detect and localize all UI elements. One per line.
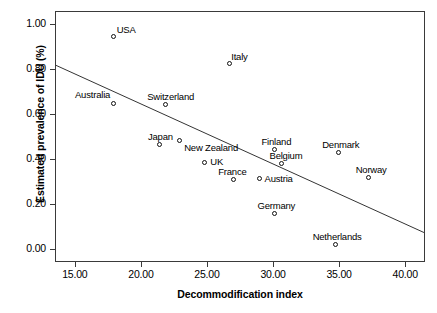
plot-frame: USAItalyAustraliaSwitzerlandJapanNew Zea…	[55, 11, 425, 262]
plot-area: USAItalyAustraliaSwitzerlandJapanNew Zea…	[56, 12, 424, 261]
y-tick-label: 0.20	[0, 198, 46, 209]
data-point-label: Japan	[148, 132, 173, 142]
data-point-label: Germany	[258, 201, 296, 211]
data-point-marker	[111, 101, 116, 106]
x-tick-mark	[273, 262, 274, 267]
y-tick-label: 0.80	[0, 63, 46, 74]
data-point-label: Finland	[261, 137, 291, 147]
data-point-label: New Zealand	[184, 143, 238, 153]
data-point-label: Belgium	[269, 151, 302, 161]
data-point-label: USA	[117, 25, 136, 35]
x-tick-label: 30.00	[250, 269, 296, 280]
data-point-label: Switzerland	[147, 92, 194, 102]
x-tick-mark	[405, 262, 406, 267]
y-tick-label: 0.00	[0, 243, 46, 254]
data-point-label: Australia	[75, 90, 110, 100]
x-tick-label: 35.00	[316, 269, 362, 280]
x-tick-mark	[207, 262, 208, 267]
figure-caption-fragment	[8, 305, 428, 313]
x-tick-label: 25.00	[184, 269, 230, 280]
x-tick-label: 15.00	[52, 269, 98, 280]
data-point-marker	[257, 176, 262, 181]
data-point-label: Netherlands	[313, 232, 362, 242]
y-tick-label: 0.40	[0, 153, 46, 164]
data-point-label: Austria	[265, 174, 293, 184]
data-point-marker	[336, 150, 341, 155]
x-tick-label: 40.00	[382, 269, 428, 280]
scatter-plot-figure: Estimated prevalence of IDU (%) Decommod…	[0, 0, 437, 313]
y-tick-label: 0.60	[0, 108, 46, 119]
x-tick-mark	[339, 262, 340, 267]
data-point-label: Italy	[231, 52, 247, 62]
data-point-marker	[366, 175, 371, 180]
trend-line	[56, 12, 424, 261]
x-tick-label: 20.00	[118, 269, 164, 280]
x-tick-mark	[141, 262, 142, 267]
x-axis-title: Decommodification index	[55, 288, 425, 300]
x-tick-mark	[75, 262, 76, 267]
y-tick-label: 1.00	[0, 18, 46, 29]
data-point-label: France	[218, 167, 246, 177]
data-point-label: Norway	[356, 165, 387, 175]
data-point-marker	[111, 34, 116, 39]
data-point-label: Denmark	[322, 140, 359, 150]
data-point-marker	[163, 102, 168, 107]
